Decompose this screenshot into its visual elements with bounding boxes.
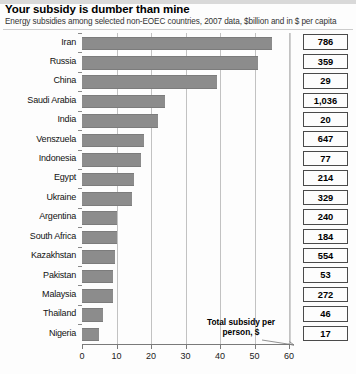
chart-subtitle: Energy subsidies among selected non-EOEC… [5, 17, 336, 26]
bar [82, 328, 99, 342]
value-box: 329 [303, 190, 348, 205]
x-tick-label: 0 [70, 351, 94, 361]
y-tick [78, 130, 82, 131]
bar [82, 114, 158, 128]
bar-row: Argentina240 [0, 208, 356, 227]
category-label: Kazakhstan [0, 250, 76, 260]
bar-row: Ukraine329 [0, 188, 356, 207]
x-tick [220, 345, 221, 349]
category-label: India [0, 114, 76, 124]
category-label: Egypt [0, 172, 76, 182]
value-box: 20 [303, 112, 348, 127]
bar-row: India20 [0, 111, 356, 130]
bar-row: Pakistan53 [0, 266, 356, 285]
value-box: 359 [303, 54, 348, 69]
category-label: Venszuela [0, 134, 76, 144]
y-tick [78, 227, 82, 228]
x-tick-label: 50 [243, 351, 267, 361]
value-box: 77 [303, 151, 348, 166]
bar [82, 289, 113, 303]
value-box: 29 [303, 73, 348, 88]
value-box: 272 [303, 287, 348, 302]
category-label: Nigeria [0, 328, 76, 338]
y-tick [78, 150, 82, 151]
category-label: South Africa [0, 231, 76, 241]
x-tick [255, 345, 256, 349]
chart-figure: Your subsidy is dumber than mine Energy … [0, 0, 356, 374]
category-label: Thailand [0, 308, 76, 318]
y-tick [78, 33, 82, 34]
bar [82, 75, 217, 89]
chart-title: Your subsidy is dumber than mine [5, 3, 189, 15]
category-label: Russia [0, 56, 76, 66]
y-tick [78, 285, 82, 286]
bar [82, 56, 258, 70]
x-tick [117, 345, 118, 349]
bar [82, 250, 115, 264]
x-tick-label: 60 [277, 351, 301, 361]
value-box: 46 [303, 306, 348, 321]
bar-row: Russia359 [0, 52, 356, 71]
bar-row: Nigeria17 [0, 324, 356, 343]
bar [82, 173, 134, 187]
y-tick [78, 305, 82, 306]
bar-row: Venszuela647 [0, 130, 356, 149]
category-label: Iran [0, 37, 76, 47]
value-box: 214 [303, 170, 348, 185]
value-box: 647 [303, 131, 348, 146]
bar [82, 37, 272, 51]
category-label: Ukraine [0, 192, 76, 202]
x-tick-label: 20 [139, 351, 163, 361]
bar-row: Saudi Arabia1,036 [0, 91, 356, 110]
y-tick [78, 72, 82, 73]
annotation-label: Total subsidy per person, $ [193, 317, 289, 337]
value-box: 786 [303, 34, 348, 49]
bar-row: Kazakhstan554 [0, 247, 356, 266]
annotation-line-2: person, $ [193, 327, 289, 337]
value-box: 240 [303, 209, 348, 224]
y-tick [78, 188, 82, 189]
y-tick [78, 266, 82, 267]
y-tick [78, 324, 82, 325]
bar [82, 211, 117, 225]
value-box: 554 [303, 248, 348, 263]
value-box: 1,036 [303, 93, 348, 108]
category-label: Saudi Arabia [0, 95, 76, 105]
x-tick-label: 40 [208, 351, 232, 361]
y-tick [78, 208, 82, 209]
x-tick-label: 10 [105, 351, 129, 361]
bar-row: South Africa184 [0, 227, 356, 246]
bar [82, 231, 117, 245]
x-tick [82, 345, 83, 349]
bar-row: Egypt214 [0, 169, 356, 188]
bar-row: Indonesia77 [0, 150, 356, 169]
value-box: 53 [303, 267, 348, 282]
bar [82, 153, 141, 167]
bar-row: Iran786 [0, 33, 356, 52]
category-label: Indonesia [0, 153, 76, 163]
bar [82, 308, 103, 322]
bar [82, 95, 165, 109]
y-tick [78, 91, 82, 92]
category-label: Argentina [0, 211, 76, 221]
y-tick [78, 247, 82, 248]
bar [82, 192, 132, 206]
category-label: Pakistan [0, 270, 76, 280]
bar-row: China29 [0, 72, 356, 91]
annotation-line-1: Total subsidy per [193, 317, 289, 327]
arrow-right-icon [262, 337, 302, 347]
category-label: Malaysia [0, 289, 76, 299]
value-box: 17 [303, 326, 348, 341]
title-divider [3, 29, 353, 30]
category-label: China [0, 75, 76, 85]
y-tick [78, 52, 82, 53]
value-box: 184 [303, 229, 348, 244]
x-tick [186, 345, 187, 349]
x-tick-label: 30 [174, 351, 198, 361]
y-tick [78, 111, 82, 112]
bar [82, 134, 144, 148]
bar-row: Malaysia272 [0, 285, 356, 304]
x-tick [151, 345, 152, 349]
bar-row: Thailand46 [0, 305, 356, 324]
bar [82, 270, 113, 284]
